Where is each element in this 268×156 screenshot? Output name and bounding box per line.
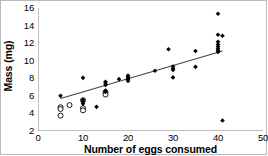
data-point-filled-diamond <box>220 118 225 123</box>
linear-fit-line <box>61 51 223 98</box>
x-axis-title: Number of eggs consumed <box>38 143 263 155</box>
data-point-open-circle <box>67 103 72 108</box>
data-point-filled-diamond <box>216 32 221 37</box>
x-tick-label: 30 <box>161 133 185 143</box>
x-tick-label: 0 <box>26 133 50 143</box>
data-point-filled-diamond <box>193 49 198 54</box>
data-point-filled-diamond <box>216 11 221 16</box>
y-tick-label: 4 <box>8 108 34 118</box>
scatter-plot-figure: 16 14 12 10 8 6 4 2 0 10 20 30 40 50 Num… <box>0 0 268 156</box>
data-point-filled-diamond <box>166 47 171 52</box>
y-tick-label: 16 <box>8 3 34 13</box>
x-tick-label: 20 <box>116 133 140 143</box>
x-tick-label: 50 <box>251 133 268 143</box>
data-point-filled-diamond <box>153 69 158 74</box>
axis-lines <box>38 8 263 131</box>
data-point-open-circle <box>58 113 63 118</box>
data-point-filled-diamond <box>193 65 198 70</box>
plot-canvas <box>38 8 263 131</box>
x-tick-label: 10 <box>71 133 95 143</box>
x-tick-label: 40 <box>206 133 230 143</box>
data-point-filled-diamond <box>171 75 176 80</box>
data-point-filled-diamond <box>81 76 86 81</box>
data-point-filled-diamond <box>220 33 225 38</box>
plot-area <box>38 8 263 131</box>
trend-line-segment <box>61 51 223 98</box>
data-point-filled-diamond <box>94 105 99 110</box>
data-point-open-circle <box>81 108 86 113</box>
data-point-open-circle <box>58 107 63 112</box>
y-axis-title: Mass (mg) <box>2 28 14 104</box>
